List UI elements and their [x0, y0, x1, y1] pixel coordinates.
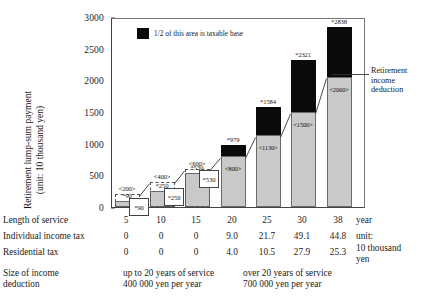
table-cell-r1-c0: 0 [124, 231, 129, 241]
table-row-label-size-of-income-deduction: Size of incomededuction [3, 268, 59, 289]
data-table: Length of service5101520253038Individual… [0, 210, 425, 300]
bar-20-years [221, 145, 246, 207]
unit-label-line1: unit: [356, 231, 373, 242]
bar-30-years [291, 60, 316, 207]
annotation-line3: deduction [371, 85, 423, 95]
retirement-income-deduction-annotation: Retirement income deduction [371, 66, 423, 95]
bar-deduction-label-25: <1130> [258, 144, 277, 151]
bar-segment-deduction-20 [221, 156, 246, 207]
bar-callout-label-10: *250 [168, 194, 181, 201]
bar-group: *90<200>*90*250<400>*250*530<600>*530*97… [112, 19, 364, 207]
bar-segment-taxable-38 [327, 27, 352, 76]
deduction-scale-over-20-years: over 20 years of service700 000 yen per … [243, 268, 332, 290]
table-cell-r2-c6: 25.3 [330, 247, 346, 257]
deduction-row-line2: deduction [3, 279, 59, 290]
legend: 1/2 of this area is taxable base [137, 28, 243, 39]
table-cell-r2-c5: 27.9 [294, 247, 310, 257]
table-cell-r1-c5: 49.1 [294, 231, 310, 241]
table-cell-r0-c5: 30 [297, 215, 306, 225]
table-cell-r1-c6: 44.8 [330, 231, 346, 241]
table-cell-r0-c3: 20 [227, 215, 236, 225]
y-tick-label-500: 500 [89, 171, 104, 181]
table-cell-r1-c1: 0 [159, 231, 164, 241]
table-cell-r2-c3: 4.0 [226, 247, 238, 257]
unit-year: year [356, 215, 372, 226]
table-cell-r1-c4: 21.7 [259, 231, 275, 241]
table-cell-r2-c1: 0 [159, 247, 164, 257]
bar-deduction-label-20: <800> [225, 165, 241, 172]
y-tick-label-3000: 3000 [84, 13, 104, 23]
bar-segment-taxable-20 [221, 145, 246, 156]
bar-segment-taxable-30 [291, 60, 316, 112]
annotation-line2: income [371, 76, 423, 86]
y-tick-label-2500: 2500 [84, 45, 104, 55]
table-row-label-1: Individual income tax [3, 231, 85, 242]
bar-segment-taxable-25 [256, 107, 281, 136]
legend-label-taxable-base: 1/2 of this area is taxable base [154, 29, 243, 38]
y-tick-label-1500: 1500 [84, 108, 104, 118]
deduction-outline-label-10: <400> [154, 173, 171, 180]
deduction-scale-up-to-20-years-line2: 400 000 yen per year [123, 279, 214, 290]
table-cell-r2-c2: 0 [194, 247, 199, 257]
table-cell-r2-c0: 0 [124, 247, 129, 257]
annotation-line1: Retirement [371, 66, 423, 76]
unit-label-line2: 10 thousand [356, 243, 401, 254]
deduction-scale-up-to-20-years-line1: up to 20 years of service [123, 268, 214, 279]
deduction-outline-label-5: <200> [119, 185, 136, 192]
table-cell-r0-c2: 15 [191, 215, 200, 225]
bar-total-label-38: *2838 [331, 18, 347, 25]
deduction-row-line1: Size of income [3, 268, 59, 279]
bar-callout-15: *530 [199, 170, 219, 188]
table-cell-r1-c3: 9.0 [226, 231, 238, 241]
table-cell-r0-c0: 5 [124, 215, 129, 225]
deduction-scale-over-20-years-line1: over 20 years of service [243, 268, 332, 279]
table-row-label-0: Length of service [3, 215, 68, 226]
y-tick-label-1000: 1000 [84, 140, 104, 150]
bar-total-label-25: *1584 [260, 98, 276, 105]
table-cell-r1-c2: 0 [194, 231, 199, 241]
table-cell-r0-c6: 38 [333, 215, 342, 225]
unit-label-line3: yen [356, 254, 369, 265]
y-tick-label-2000: 2000 [84, 76, 104, 86]
bar-callout-label-15: *530 [203, 176, 216, 183]
bar-segment-deduction-38 [327, 77, 352, 207]
bar-total-label-20: *979 [227, 136, 240, 143]
bar-38-years [327, 27, 352, 207]
bar-deduction-label-38: <2060> [329, 86, 348, 93]
chart-figure: 300025002000150010005000 Retirement lump… [0, 0, 425, 300]
table-row-label-2: Residential tax [3, 247, 59, 258]
deduction-scale-up-to-20-years: up to 20 years of service400 000 yen per… [123, 268, 214, 290]
deduction-scale-over-20-years-line2: 700 000 yen per year [243, 279, 332, 290]
table-cell-r0-c4: 25 [262, 215, 271, 225]
bar-deduction-label-30: <1500> [293, 121, 312, 128]
plot-area: *90<200>*90*250<400>*250*530<600>*530*97… [111, 18, 365, 208]
legend-swatch-taxable-base [137, 28, 149, 39]
table-cell-r2-c4: 10.5 [259, 247, 275, 257]
deduction-outline-label-15: <600> [189, 160, 206, 167]
bar-total-label-30: *2321 [295, 51, 311, 58]
table-cell-r0-c1: 10 [156, 215, 165, 225]
bar-callout-10: *250 [164, 188, 184, 206]
bar-25-years [256, 107, 281, 207]
